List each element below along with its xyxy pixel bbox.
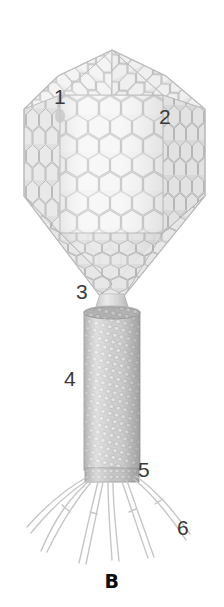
- capsid-vertex-marker: [55, 109, 65, 123]
- callout-4: 4: [64, 368, 76, 389]
- panel-letter: B: [0, 570, 224, 592]
- tail-fiber-joint: [90, 512, 97, 514]
- callout-1: 1: [54, 86, 66, 107]
- callout-3: 3: [76, 281, 88, 302]
- tail-sheath: [84, 307, 140, 470]
- callout-6: 6: [177, 517, 189, 538]
- tail-fiber: [31, 480, 88, 533]
- capsid-head: [24, 50, 205, 296]
- tail-fiber: [108, 482, 112, 560]
- tail-fiber-group: [27, 476, 190, 564]
- baseplate: [85, 468, 139, 482]
- callout-2: 2: [159, 106, 171, 127]
- tail-sheath-top-cap: [84, 307, 140, 319]
- capsid-facet-left: [24, 95, 60, 233]
- baseplate-shading: [85, 468, 139, 482]
- tail-sheath-shading: [84, 312, 140, 470]
- bacteriophage-diagram: [0, 0, 224, 607]
- tail-fiber: [122, 482, 148, 558]
- tail-fiber: [47, 481, 92, 552]
- tail-fiber: [127, 481, 154, 557]
- tail-fiber: [113, 482, 119, 561]
- callout-5: 5: [138, 459, 150, 480]
